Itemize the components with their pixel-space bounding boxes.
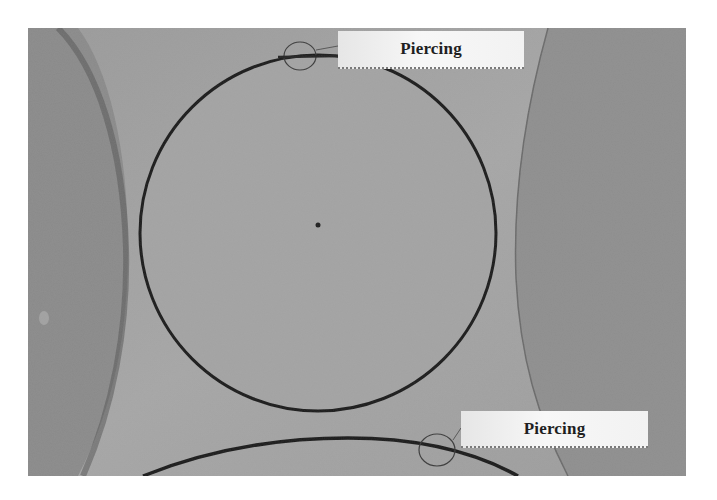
callout-label: Piercing: [524, 419, 586, 439]
callout-piercing-bottom: Piercing: [461, 411, 648, 448]
photo-scene: [28, 28, 686, 476]
callout-label: Piercing: [400, 39, 462, 59]
photograph: [28, 28, 686, 476]
callout-piercing-top: Piercing: [338, 31, 524, 69]
photo-grain: [28, 28, 686, 476]
